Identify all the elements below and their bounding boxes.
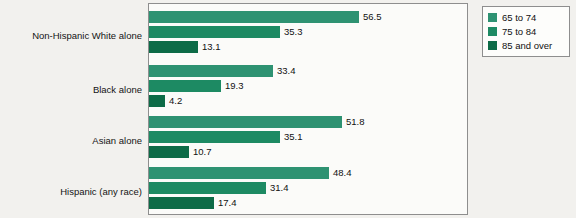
bar-series-85-and-over [149, 197, 214, 209]
legend-label: 85 and over [502, 40, 552, 51]
bar-chart-figure: Non-Hispanic White alone 56.5 35.3 13.1 … [0, 0, 576, 218]
bar-series-75-to-84 [149, 131, 280, 143]
legend-label: 65 to 74 [502, 12, 536, 23]
bar-value-label: 13.1 [198, 41, 221, 53]
bar-series-85-and-over [149, 95, 165, 107]
legend-item-85-and-over: 85 and over [488, 39, 565, 52]
legend-swatch-icon [488, 41, 497, 50]
bar-value-label: 33.4 [273, 65, 296, 77]
bar-series-65-to-74 [149, 116, 342, 128]
bar-value-label: 35.3 [280, 26, 303, 38]
bar-series-75-to-84 [149, 26, 280, 38]
bar-value-label: 56.5 [359, 11, 382, 23]
category-label-1: Black alone [0, 84, 142, 95]
bar-series-65-to-74 [149, 65, 273, 77]
bar-series-65-to-74 [149, 11, 359, 23]
bar-value-label: 35.1 [280, 131, 303, 143]
category-label-0: Non-Hispanic White alone [0, 30, 142, 41]
bar-series-75-to-84 [149, 80, 221, 92]
legend-item-75-to-84: 75 to 84 [488, 25, 565, 38]
category-label-3: Hispanic (any race) [0, 186, 142, 197]
bar-value-label: 19.3 [221, 80, 244, 92]
bar-series-85-and-over [149, 146, 189, 158]
legend-label: 75 to 84 [502, 26, 536, 37]
bar-value-label: 17.4 [214, 197, 237, 209]
bar-series-65-to-74 [149, 167, 329, 179]
legend-item-65-to-74: 65 to 74 [488, 11, 565, 24]
bar-value-label: 48.4 [329, 167, 352, 179]
legend-swatch-icon [488, 27, 497, 36]
category-label-2: Asian alone [0, 135, 142, 146]
bar-value-label: 51.8 [342, 116, 365, 128]
legend-swatch-icon [488, 13, 497, 22]
bar-value-label: 31.4 [266, 182, 289, 194]
chart-legend: 65 to 74 75 to 84 85 and over [482, 6, 570, 57]
bar-series-75-to-84 [149, 182, 266, 194]
bar-value-label: 4.2 [165, 95, 182, 107]
bar-value-label: 10.7 [189, 146, 212, 158]
bar-series-85-and-over [149, 41, 198, 53]
